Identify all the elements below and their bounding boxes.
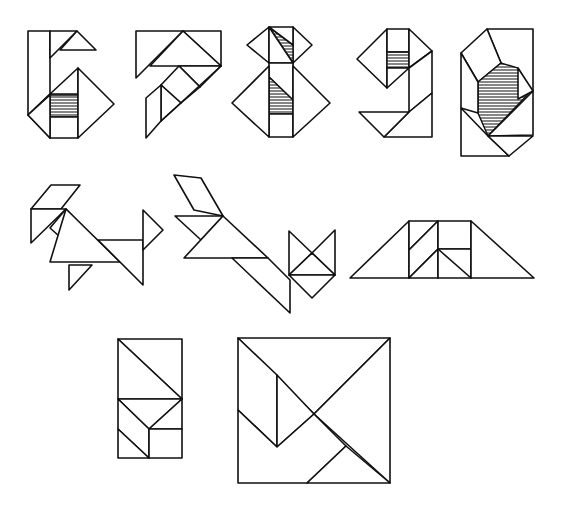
figure-digit-6: 6 — [28, 31, 114, 138]
figure-digit-9: 9 — [357, 29, 432, 137]
figure-cat: cat — [174, 175, 335, 313]
tangram-sheet: 6 7 8 9 — [0, 0, 566, 510]
figure-square: square — [238, 338, 390, 483]
figure-digit-7: 7 — [136, 31, 221, 138]
figure-digit-0: 0 — [461, 29, 533, 156]
figure-dog: dog — [31, 185, 163, 290]
figure-digit-8: 8 — [232, 27, 330, 137]
figure-rectangle: rectangle — [118, 339, 182, 458]
figure-trapezoid: trapezoid — [350, 221, 534, 278]
